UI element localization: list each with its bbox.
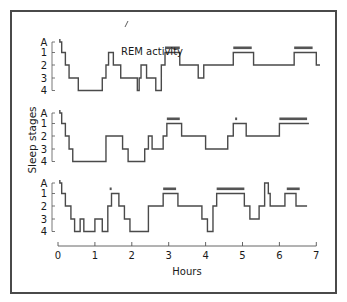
panels: A1234A1234A1234 — [41, 37, 320, 238]
hypnogram-line — [60, 110, 309, 162]
x-axis-label: Hours — [172, 266, 201, 277]
rem-bar — [235, 118, 237, 121]
x-tick-label: 5 — [239, 250, 245, 261]
rem-bar — [163, 188, 176, 191]
x-tick-label: 1 — [92, 250, 98, 261]
annotation-pointer — [125, 21, 128, 27]
y-tick-label: A — [41, 108, 48, 119]
y-axis-label: Sleep stages — [26, 106, 38, 173]
hypnogram-line — [60, 180, 307, 232]
x-axis: 01234567 — [55, 242, 320, 261]
hypnogram-chart: A1234A1234A1234 01234567 REM activity Sl… — [0, 0, 347, 302]
y-tick-label: 1 — [41, 47, 47, 58]
y-tick-label: A — [41, 178, 48, 189]
y-tick-label: 2 — [41, 131, 47, 142]
y-tick-label: 3 — [41, 144, 47, 155]
hypnogram-line — [60, 39, 320, 91]
y-tick-label: A — [41, 37, 48, 48]
x-tick-label: 4 — [202, 250, 208, 261]
y-tick-label: 1 — [41, 118, 47, 129]
y-tick-label: 4 — [41, 156, 47, 167]
y-tick-label: 1 — [41, 188, 47, 199]
x-tick-label: 7 — [313, 250, 319, 261]
y-tick-label: 3 — [41, 214, 47, 225]
y-tick-label: 2 — [41, 60, 47, 71]
x-tick-label: 3 — [166, 250, 172, 261]
y-tick-label: 3 — [41, 73, 47, 84]
rem-bar — [217, 188, 245, 191]
x-tick-label: 0 — [55, 250, 61, 261]
rem-bar — [110, 188, 112, 191]
rem-bar — [294, 47, 312, 50]
y-tick-label: 4 — [41, 226, 47, 237]
panel-2: A1234 — [41, 108, 309, 168]
rem-bar — [287, 188, 300, 191]
y-tick-label: 2 — [41, 201, 47, 212]
rem-bar — [279, 118, 307, 121]
x-tick-label: 6 — [276, 250, 282, 261]
rem-bar — [233, 47, 251, 50]
panel-3: A1234 — [41, 178, 307, 238]
y-tick-label: 4 — [41, 85, 47, 96]
rem-annotation: REM activity — [121, 46, 183, 57]
rem-bar — [167, 118, 180, 121]
x-tick-label: 2 — [129, 250, 135, 261]
